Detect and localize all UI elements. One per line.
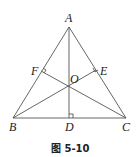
label-o: O: [70, 72, 79, 86]
altitude-be: [13, 70, 96, 118]
triangle-altitudes-diagram: A B C D E F O 图 5-10: [0, 0, 139, 157]
label-d: D: [64, 120, 74, 134]
label-b: B: [9, 120, 17, 134]
label-f: F: [30, 64, 39, 78]
label-a: A: [64, 11, 73, 25]
label-c: C: [122, 120, 131, 134]
label-e: E: [99, 64, 108, 78]
right-angle-mark-d: [69, 114, 73, 118]
figure-caption: 图 5-10: [51, 143, 90, 154]
side-ab: [13, 27, 69, 118]
